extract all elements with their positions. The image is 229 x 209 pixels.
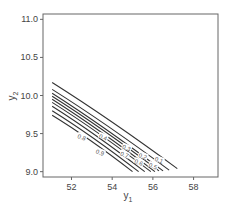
contour-chart: 9.09.510.010.511.0 52545658 0.10.20.30.4… [0, 0, 229, 209]
contour-labels: 0.10.20.30.40.50.60.70.80.9 [76, 132, 165, 171]
x-tick-label: 52 [66, 182, 76, 192]
y-axis-ticks: 9.09.510.010.511.0 [20, 14, 43, 176]
y-tick-label: 10.0 [20, 91, 38, 101]
plot-frame [43, 14, 218, 177]
y-tick-label: 9.5 [25, 129, 38, 139]
y-tick-label: 10.5 [20, 52, 38, 62]
y-tick-label: 11.0 [21, 14, 38, 24]
y-axis-label: y2 [6, 91, 19, 100]
contour-line-0.2 [52, 89, 169, 170]
contour-line-0.1 [52, 83, 177, 169]
contour-line-0.9 [52, 115, 132, 171]
contour-line-0.8 [52, 111, 138, 172]
y-tick-label: 9.0 [25, 167, 38, 177]
x-tick-label: 56 [148, 182, 158, 192]
contour-line-0.7 [52, 106, 145, 172]
x-tick-label: 54 [107, 182, 117, 192]
x-axis-ticks: 52545658 [66, 177, 198, 192]
x-axis-label: y1 [124, 190, 133, 203]
x-tick-label: 58 [189, 182, 199, 192]
